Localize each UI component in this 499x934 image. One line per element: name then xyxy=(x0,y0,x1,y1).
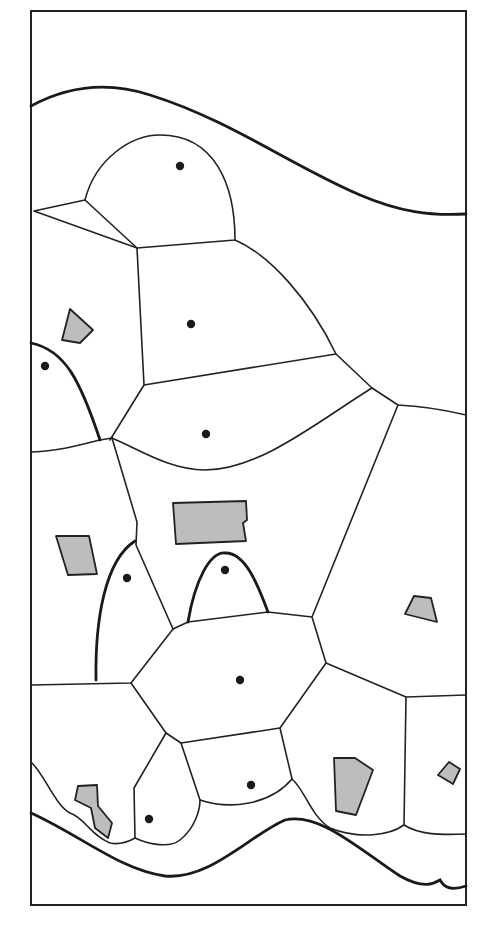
cell-edge xyxy=(144,240,336,385)
cell-edge xyxy=(336,354,466,415)
obstacle-center-large xyxy=(173,501,247,544)
cell-edge xyxy=(34,135,235,248)
cell-edge xyxy=(85,200,137,248)
site-3 xyxy=(41,362,49,370)
middle-center-bump xyxy=(188,553,268,622)
diagram-frame xyxy=(31,11,466,905)
cell-edge xyxy=(181,663,326,743)
middle-left-bump xyxy=(96,541,135,680)
obstacles xyxy=(56,309,460,838)
voronoi-diagram xyxy=(0,0,499,934)
top-boundary-curve xyxy=(31,87,466,214)
cell-edge xyxy=(31,629,173,685)
site-5 xyxy=(123,574,131,582)
cell-edge xyxy=(110,248,144,440)
cell-edge xyxy=(135,800,200,845)
obstacle-top-left xyxy=(62,309,93,343)
site-4 xyxy=(202,430,210,438)
cell-edge xyxy=(404,697,406,825)
cell-edge xyxy=(181,743,200,800)
site-7 xyxy=(236,676,244,684)
cell-edges xyxy=(31,135,466,845)
cell-edge xyxy=(200,779,466,835)
cell-edge xyxy=(112,438,173,629)
sites xyxy=(41,162,255,823)
obstacle-bottom-center-right xyxy=(334,758,373,815)
site-1 xyxy=(176,162,184,170)
obstacle-right-small xyxy=(405,596,437,622)
cell-edge xyxy=(268,405,398,617)
cell-edge xyxy=(312,617,466,697)
left-bump-curve xyxy=(31,343,100,440)
obstacle-bottom-right-small xyxy=(438,762,460,784)
cell-edge xyxy=(280,728,292,779)
site-2 xyxy=(187,320,195,328)
obstacle-left-mid xyxy=(56,536,97,575)
site-8 xyxy=(247,781,255,789)
cell-edge xyxy=(112,388,372,470)
site-9 xyxy=(145,815,153,823)
site-6 xyxy=(221,566,229,574)
cell-edge xyxy=(131,683,181,743)
boundary-curves xyxy=(31,87,466,888)
obstacle-bottom-left xyxy=(75,785,112,838)
